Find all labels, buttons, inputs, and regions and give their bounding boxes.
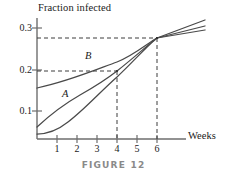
intersection-week4: [116, 70, 118, 72]
y-tick-label-0.1: 0.1: [8, 105, 32, 116]
figure-caption: FIGURE 12: [0, 160, 227, 170]
x-tick-label-6: 6: [151, 143, 163, 154]
x-tick-label-1: 1: [51, 143, 63, 154]
y-tick-label-0.3: 0.3: [8, 22, 32, 33]
intersection-week6: [156, 37, 158, 39]
curve-b: [37, 26, 205, 88]
curve-third: [37, 20, 205, 134]
curve-label-a: A: [62, 88, 68, 99]
curve-a: [37, 30, 205, 127]
x-tick-label-2: 2: [71, 143, 83, 154]
figure-container: Fraction infected Weeks 0.3 0.2 0.1 1 2 …: [0, 0, 227, 179]
x-tick-label-3: 3: [91, 143, 103, 154]
y-axis-title: Fraction infected: [38, 2, 111, 13]
x-axis-title: Weeks: [188, 130, 216, 141]
x-tick-label-4: 4: [111, 143, 123, 154]
x-tick-label-5: 5: [131, 143, 143, 154]
y-tick-label-0.2: 0.2: [8, 64, 32, 75]
curve-label-b: B: [85, 50, 91, 61]
